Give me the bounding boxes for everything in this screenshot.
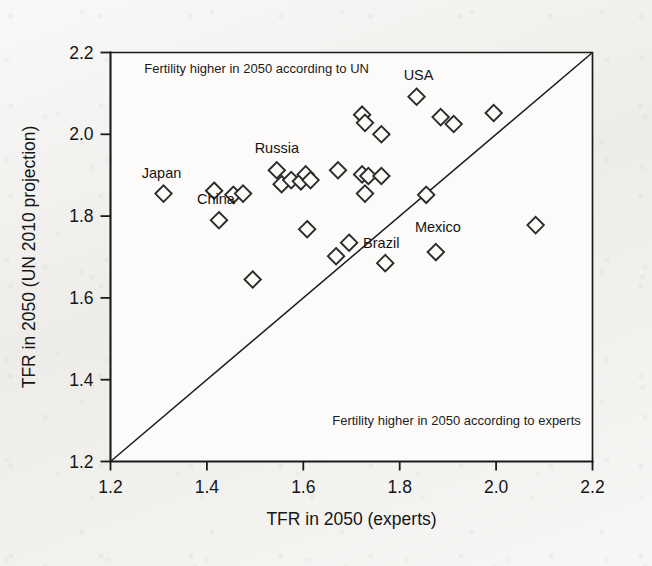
figure-canvas: 1.21.41.61.82.02.21.21.41.61.82.02.2TFR …	[0, 0, 652, 566]
data-point-label: Brazil	[363, 235, 399, 251]
y-axis-title: TFR in 2050 (UN 2010 projection)	[19, 126, 39, 389]
data-point-label: China	[197, 191, 236, 207]
data-point-label: Japan	[142, 165, 182, 181]
x-axis-tick-label: 1.2	[98, 477, 122, 497]
y-axis-tick-label: 1.4	[69, 370, 94, 390]
x-axis-tick-label: 1.8	[388, 477, 412, 497]
x-axis-tick-label: 1.4	[195, 477, 220, 497]
x-axis-tick-label: 2.0	[484, 477, 509, 497]
y-axis-tick-label: 2.2	[69, 43, 93, 63]
scatter-plot: 1.21.41.61.82.02.21.21.41.61.82.02.2TFR …	[0, 0, 652, 566]
x-axis-tick-label: 2.2	[580, 477, 604, 497]
x-axis-tick-label: 1.6	[291, 477, 315, 497]
lower-region-note: Fertility higher in 2050 according to ex…	[332, 413, 581, 428]
y-axis-tick-label: 1.2	[69, 452, 93, 472]
upper-region-note: Fertility higher in 2050 according to UN	[144, 61, 369, 76]
y-axis-tick-label: 1.8	[69, 206, 93, 226]
y-axis-tick-label: 1.6	[69, 288, 93, 308]
data-point-label: USA	[404, 67, 434, 83]
data-point-label: Russia	[255, 140, 300, 156]
x-axis-title: TFR in 2050 (experts)	[266, 509, 436, 529]
y-axis-tick-label: 2.0	[69, 124, 94, 144]
data-point-label: Mexico	[415, 219, 461, 235]
